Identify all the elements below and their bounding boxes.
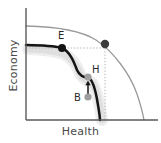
data-point-outer [101,40,109,48]
data-point-B [84,93,91,100]
data-point-E [58,44,66,52]
y-axis-label: Economy [7,26,20,106]
data-point-H [84,73,91,80]
frontier-shadow-path-soft [28,49,102,120]
frontier-plot-svg [0,0,161,143]
x-axis-label: Health [0,125,161,138]
point-label-h: H [92,65,100,75]
point-label-e: E [58,31,64,41]
frontier-shadow-group [28,49,102,120]
chart-figure: Health Economy E H B [0,0,161,143]
point-label-b: B [74,93,81,103]
